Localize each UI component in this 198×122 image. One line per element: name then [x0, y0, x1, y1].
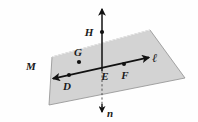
point-dot-g: [77, 60, 81, 64]
point-dot-f: [122, 62, 126, 66]
point-label-h: H: [84, 26, 94, 38]
point-label-g: G: [74, 46, 82, 58]
line-label-n: n: [107, 107, 113, 119]
point-label-f: F: [120, 69, 129, 81]
point-dot-d: [67, 73, 71, 77]
geometry-figure: M H G D E F ℓ n: [0, 0, 198, 122]
point-dot-h: [100, 30, 104, 34]
plane-label-m: M: [25, 60, 37, 72]
point-label-d: D: [62, 80, 71, 92]
plane-m: [49, 30, 185, 105]
point-label-e: E: [100, 70, 108, 82]
figure-canvas: M H G D E F ℓ n: [0, 0, 198, 122]
line-label-l: ℓ: [152, 51, 157, 65]
